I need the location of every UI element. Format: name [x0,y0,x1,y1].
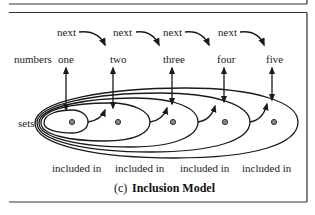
included-in-label-4: included in [242,162,292,174]
number-one: one [58,53,74,65]
next-arrow-3 [185,32,209,45]
element-dot-5 [271,119,276,124]
next-label-3: next [163,26,182,38]
next-label-1: next [57,26,76,38]
element-dot-2 [115,119,120,124]
inclusion-model-diagram: next next next next numbers one two thre… [0,0,315,215]
number-three: three [163,53,185,65]
next-arrow-4 [240,32,264,45]
next-arrow-2 [136,32,159,45]
next-label-2: next [113,26,132,38]
inclusion-arrow-2 [150,108,167,122]
included-in-label-1: included in [52,162,102,174]
numbers-row-label: numbers [14,53,52,65]
next-arrow-1 [79,32,105,45]
number-five: five [266,53,283,65]
number-four: four [217,53,236,65]
set-1 [44,110,88,133]
set-elements [69,119,276,124]
inclusion-arrow-4 [250,104,267,122]
caption-title: Inclusion Model [132,181,216,195]
caption-prefix: (c) [114,181,127,195]
included-in-label-2: included in [115,162,165,174]
element-dot-1 [69,119,74,124]
next-label-4: next [218,26,237,38]
number-two: two [110,53,127,65]
element-dot-3 [170,119,175,124]
set-2 [41,103,150,141]
inclusion-arrow-3 [198,106,215,122]
sets-row-label: sets [18,117,35,129]
inclusion-arrows [88,104,267,122]
inclusion-arrow-1 [88,110,105,122]
included-in-label-3: included in [180,162,230,174]
element-dot-4 [222,119,227,124]
